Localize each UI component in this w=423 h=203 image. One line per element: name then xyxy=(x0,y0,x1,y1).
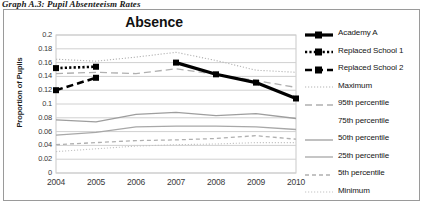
legend-item-label: Replaced School 2 xyxy=(338,63,403,72)
legend-item-label: Academy A xyxy=(338,28,378,37)
legend-item[interactable]: Replaced School 2 xyxy=(304,59,423,77)
x-axis-tick-label: 2004 xyxy=(36,177,76,187)
series-marker xyxy=(53,87,59,93)
legend-item[interactable]: 75th percentile xyxy=(304,112,423,130)
series-line xyxy=(176,63,296,99)
series-line xyxy=(56,126,296,135)
legend-swatch-icon xyxy=(304,44,334,56)
x-axis-tick-label: 2007 xyxy=(156,177,196,187)
series-line xyxy=(56,67,96,68)
legend-swatch-icon xyxy=(304,149,334,161)
legend-item[interactable]: 50th percentile xyxy=(304,129,423,147)
chart-frame: Absence Proportion of Pupils 00.020.040.… xyxy=(3,9,420,201)
legend-swatch-icon xyxy=(304,27,334,39)
series-marker xyxy=(253,80,259,86)
series-marker xyxy=(173,60,179,66)
legend-item-label: 50th percentile xyxy=(338,133,389,142)
legend-swatch-icon xyxy=(304,132,334,144)
chart-legend: Academy AReplaced School 1Replaced Schoo… xyxy=(304,24,423,199)
series-line xyxy=(56,136,296,145)
y-axis-tick-label: 0.2 xyxy=(22,30,52,39)
legend-item-label: 75th percentile xyxy=(338,116,389,125)
y-axis-tick-label: 0.02 xyxy=(22,154,52,163)
y-axis-tick-label: 0 xyxy=(22,168,52,177)
legend-swatch-icon xyxy=(304,184,334,196)
y-axis-tick-label: 0.1 xyxy=(22,99,52,108)
legend-swatch-icon xyxy=(304,167,334,179)
y-axis-tick-label: 0.14 xyxy=(22,71,52,80)
series-marker xyxy=(213,71,219,77)
legend-swatch-icon xyxy=(304,79,334,91)
legend-item[interactable]: Academy A xyxy=(304,24,423,42)
y-axis-tick-label: 0.06 xyxy=(22,127,52,136)
legend-item-label: 95th percentile xyxy=(338,98,389,107)
figure-container: Graph A.3: Pupil Absenteeism Rates Absen… xyxy=(0,0,423,203)
figure-caption: Graph A.3: Pupil Absenteeism Rates xyxy=(2,0,141,9)
legend-swatch-icon xyxy=(304,97,334,109)
legend-item[interactable]: 95th percentile xyxy=(304,94,423,112)
legend-item[interactable]: 5th percentile xyxy=(304,164,423,182)
series-line xyxy=(56,143,296,152)
legend-item-label: Minimum xyxy=(338,186,370,195)
x-axis-tick-label: 2005 xyxy=(76,177,116,187)
series-line xyxy=(56,78,96,90)
y-axis-tick-label: 0.12 xyxy=(22,85,52,94)
legend-swatch-icon xyxy=(304,62,334,74)
series-marker xyxy=(93,64,99,70)
legend-item-label: 25th percentile xyxy=(338,151,389,160)
x-axis-tick-label: 2006 xyxy=(116,177,156,187)
legend-item-label: Replaced School 1 xyxy=(338,46,403,55)
legend-item[interactable]: Minimum xyxy=(304,182,423,200)
series-line xyxy=(56,112,296,122)
legend-item[interactable]: Replaced School 1 xyxy=(304,42,423,60)
x-axis-tick-label: 2008 xyxy=(196,177,236,187)
legend-item[interactable]: 25th percentile xyxy=(304,147,423,165)
legend-swatch-icon xyxy=(304,114,334,126)
y-axis-tick-label: 0.04 xyxy=(22,140,52,149)
series-marker xyxy=(93,75,99,81)
y-axis-tick-label: 0.18 xyxy=(22,44,52,53)
legend-item[interactable]: Maximum xyxy=(304,77,423,95)
series-marker xyxy=(293,95,299,101)
series-marker xyxy=(53,65,59,71)
x-axis-tick-label: 2009 xyxy=(236,177,276,187)
y-axis-tick-label: 0.16 xyxy=(22,58,52,67)
legend-item-label: Maximum xyxy=(338,81,372,90)
y-axis-tick-label: 0.08 xyxy=(22,113,52,122)
legend-item-label: 5th percentile xyxy=(338,168,385,177)
